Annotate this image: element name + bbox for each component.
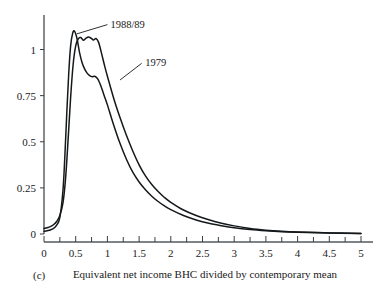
y-tick-label: 0.75 [17, 90, 37, 102]
x-tick-label: 4.5 [322, 247, 336, 259]
panel-label: (c) [33, 269, 46, 282]
x-tick-label: 3.5 [259, 247, 273, 259]
annotation-leader-line [77, 25, 107, 34]
y-tick-label: 0 [31, 228, 37, 240]
series-annotation-label: 1988/89 [110, 19, 144, 30]
y-tick-label: 1 [31, 44, 37, 56]
x-tick-label: 1 [105, 247, 111, 259]
y-tick-label: 0.25 [17, 182, 37, 194]
series-annotations: 1988/891979 [77, 19, 166, 80]
x-tick-marks [44, 236, 361, 242]
y-tick-label: 0.5 [22, 136, 36, 148]
figure-panel-c: 00.250.50.751 00.511.522.533.544.55 1988… [0, 0, 378, 291]
x-tick-label: 2.5 [196, 247, 210, 259]
distribution-chart: 00.250.50.751 00.511.522.533.544.55 1988… [0, 0, 378, 291]
x-axis-title: Equivalent net income BHC divided by con… [73, 268, 338, 280]
x-tick-label: 4 [295, 247, 301, 259]
y-tick-labels: 00.250.50.751 [17, 44, 37, 240]
series-curves [44, 31, 361, 234]
x-tick-label: 1.5 [132, 247, 146, 259]
x-tick-label: 3 [231, 247, 237, 259]
annotation-leader-line [120, 63, 142, 80]
x-tick-label: 2 [168, 247, 174, 259]
x-tick-label: 5 [358, 247, 364, 259]
x-tick-label: 0 [41, 247, 47, 259]
x-axis: 00.511.522.533.544.55 [41, 236, 373, 259]
curve-1988-89 [44, 37, 361, 233]
series-annotation-label: 1979 [145, 57, 166, 68]
x-tick-labels: 00.511.522.533.544.55 [41, 247, 364, 259]
x-tick-label: 0.5 [69, 247, 83, 259]
curve-1979 [44, 31, 361, 234]
y-axis: 00.250.50.751 [17, 15, 44, 240]
